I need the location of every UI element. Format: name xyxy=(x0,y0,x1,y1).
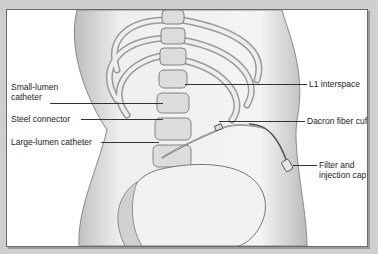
label-dacron-fiber-cuff: Dacron fiber cuff xyxy=(307,116,368,126)
pelvis xyxy=(125,164,265,246)
label-filter-injection-cap: Filter and injection cap xyxy=(319,160,366,180)
leader-line-dacron xyxy=(219,121,305,122)
leader-line-l1 xyxy=(185,84,307,85)
leader-line-small-lumen xyxy=(50,103,163,104)
leader-line-filter xyxy=(293,165,317,166)
label-line: catheter xyxy=(11,92,58,102)
label-l1-interspace: L1 interspace xyxy=(309,79,360,89)
leader-line-steel-connector xyxy=(81,119,163,120)
leader-line-large-lumen xyxy=(101,142,159,143)
label-line: Filter and xyxy=(319,160,366,170)
label-line: Small-lumen xyxy=(11,82,58,92)
label-steel-connector: Steel connector xyxy=(11,114,70,124)
figure-panel: Small-lumen catheter Steel connector Lar… xyxy=(6,9,368,247)
label-small-lumen-catheter: Small-lumen catheter xyxy=(11,82,58,102)
spine-illustration xyxy=(7,10,367,246)
label-large-lumen-catheter: Large-lumen catheter xyxy=(11,137,92,147)
label-line: injection cap xyxy=(319,170,366,180)
